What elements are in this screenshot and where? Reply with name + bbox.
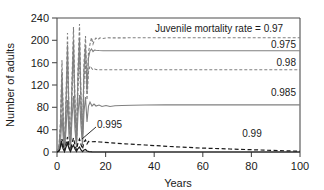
series-line-0975 — [57, 38, 300, 152]
annotation-0975: 0.975 — [271, 39, 296, 50]
y-tick-200: 200 — [31, 34, 49, 46]
y-tick-240: 240 — [31, 12, 49, 24]
annotation-header: Juvenile mortality rate = 0.97 — [155, 23, 284, 34]
series-line-097 — [57, 24, 300, 152]
x-tick-0: 0 — [54, 160, 60, 172]
x-tick-20: 20 — [99, 160, 111, 172]
x-tick-40: 40 — [148, 160, 160, 172]
series-line-0985 — [57, 95, 300, 152]
y-tick-40: 40 — [37, 124, 49, 136]
x-axis-title: Years — [164, 177, 192, 189]
annotation-0995: 0.995 — [97, 119, 122, 130]
x-tick-80: 80 — [245, 160, 257, 172]
y-tick-120: 120 — [31, 79, 49, 91]
y-axis-title: Number of adults — [4, 43, 16, 127]
x-tick-100: 100 — [291, 160, 309, 172]
x-tick-60: 60 — [197, 160, 209, 172]
annotation-0985: 0.985 — [271, 87, 296, 98]
x-axis-ticks — [57, 152, 300, 157]
y-tick-0: 0 — [43, 146, 49, 158]
series-line-099 — [57, 137, 300, 152]
y-tick-160: 160 — [31, 57, 49, 69]
line-chart: 240 200 160 120 80 40 0 0 20 40 60 80 10… — [0, 0, 324, 190]
chart-figure: 240 200 160 120 80 40 0 0 20 40 60 80 10… — [0, 0, 324, 190]
y-axis-ticks — [52, 18, 57, 152]
annotation-098: 0.98 — [277, 57, 297, 68]
y-tick-80: 80 — [37, 101, 49, 113]
leader-line-0995 — [82, 127, 96, 139]
annotation-099: 0.99 — [242, 128, 262, 139]
